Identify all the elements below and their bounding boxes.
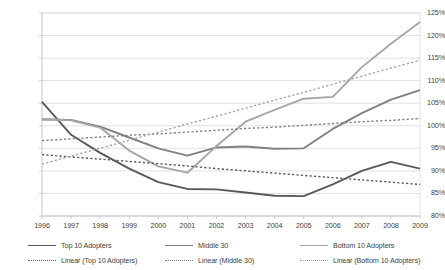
legend-label: Linear (Middle 30)	[198, 256, 254, 265]
series-line-linear-middle-30	[42, 119, 420, 141]
legend-swatch-line	[300, 245, 328, 246]
legend-swatch	[300, 256, 328, 265]
legend-item[interactable]: Linear (Bottom 10 Adopters)	[300, 253, 420, 268]
legend-swatch-line	[165, 260, 193, 261]
series-line-middle-30	[42, 90, 420, 155]
y-tick-label: 90%	[409, 167, 445, 175]
legend-label: Linear (Bottom 10 Adopters)	[333, 256, 420, 265]
y-tick-label: 105%	[409, 99, 445, 107]
y-tick-label: 100%	[409, 122, 445, 130]
series-line-bottom-10-adopters	[42, 22, 420, 173]
legend-label: Bottom 10 Adopters	[333, 241, 394, 250]
legend-item[interactable]: Linear (Middle 30)	[165, 253, 254, 268]
legend-swatch	[28, 241, 56, 250]
legend-item[interactable]: Middle 30	[165, 238, 228, 253]
legend-swatch	[28, 256, 56, 265]
chart-container: 125%120%115%110%105%100%95%90%85%80% 199…	[0, 0, 445, 270]
legend-label: Middle 30	[198, 241, 228, 250]
legend-swatch-line	[165, 245, 193, 246]
legend-label: Top 10 Adopters	[61, 241, 111, 250]
y-tick-label: 120%	[409, 32, 445, 40]
legend-swatch-line	[28, 245, 56, 246]
chart-legend: Top 10 AdoptersMiddle 30Bottom 10 Adopte…	[0, 238, 445, 270]
legend-item[interactable]: Top 10 Adopters	[28, 238, 111, 253]
series-line-linear-top-10-adopters	[42, 155, 420, 185]
x-tick-label: 2009	[403, 221, 437, 230]
legend-item[interactable]: Linear (Top 10 Adopters)	[28, 253, 137, 268]
y-tick-label: 110%	[409, 77, 445, 85]
legend-swatch	[165, 256, 193, 265]
y-tick-label: 80%	[409, 212, 445, 220]
legend-swatch	[165, 241, 193, 250]
y-tick-label: 95%	[409, 144, 445, 152]
legend-item[interactable]: Bottom 10 Adopters	[300, 238, 394, 253]
y-tick-label: 125%	[409, 9, 445, 17]
legend-label: Linear (Top 10 Adopters)	[61, 256, 137, 265]
series-line-top-10-adopters	[42, 102, 420, 196]
legend-swatch	[300, 241, 328, 250]
series-line-linear-bottom-10-adopters	[42, 60, 420, 164]
legend-swatch-line	[300, 260, 328, 261]
legend-row-trendlines: Linear (Top 10 Adopters)Linear (Middle 3…	[0, 253, 445, 268]
y-tick-label: 115%	[409, 54, 445, 62]
legend-row-series: Top 10 AdoptersMiddle 30Bottom 10 Adopte…	[0, 238, 445, 253]
legend-swatch-line	[28, 260, 56, 261]
y-tick-label: 85%	[409, 189, 445, 197]
